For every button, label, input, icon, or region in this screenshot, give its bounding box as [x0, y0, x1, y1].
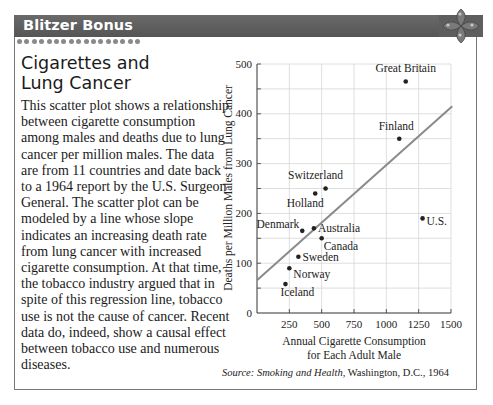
divider-dot — [84, 39, 89, 44]
source-rest: Washington, D.C., 1964 — [348, 367, 449, 378]
flower-icon — [439, 6, 483, 46]
divider-dot — [91, 39, 96, 44]
divider-dot — [76, 39, 81, 44]
divider-dot — [98, 39, 103, 44]
divider-dot — [113, 39, 118, 44]
divider-dot — [39, 39, 44, 44]
divider-dot — [69, 39, 74, 44]
divider-dot — [128, 39, 133, 44]
dotted-divider — [17, 39, 140, 44]
divider-dot — [24, 39, 29, 44]
divider-dot — [54, 39, 59, 44]
header-title: Blitzer Bonus — [23, 17, 133, 33]
divider-dot — [47, 39, 52, 44]
article-title: Cigarettes and Lung Cancer — [21, 53, 221, 93]
divider-dot — [61, 39, 66, 44]
divider-dot — [106, 39, 111, 44]
article-body: This scatter plot shows a relationship b… — [21, 98, 233, 373]
title-line-1: Cigarettes and — [21, 53, 221, 73]
divider-dot — [120, 39, 125, 44]
divider-dot — [17, 39, 22, 44]
title-line-2: Lung Cancer — [21, 73, 221, 93]
divider-dot — [32, 39, 37, 44]
source-title: Smoking and Health, — [257, 367, 345, 378]
divider-dot — [135, 39, 140, 44]
source-label: Source: — [222, 367, 254, 378]
header-bar: Blitzer Bonus — [14, 15, 477, 37]
source-citation: Source: Smoking and Health, Washington, … — [222, 367, 449, 378]
